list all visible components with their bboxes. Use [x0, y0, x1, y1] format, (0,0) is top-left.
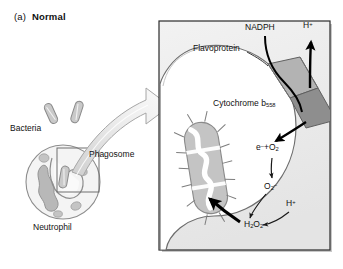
cytochrome-name: Cytochrome b: [213, 98, 266, 108]
panel-index: (a): [14, 11, 26, 22]
page-title: (a) Normal: [14, 12, 66, 22]
label-electron-plus-oxygen: e–+O2: [256, 143, 279, 153]
bacterium-left: [43, 102, 59, 124]
label-bacteria: Bacteria: [10, 124, 41, 133]
bacteria-group: [43, 100, 84, 124]
cytochrome-subscript: 558: [266, 102, 276, 108]
plus-oxygen: +O: [264, 142, 276, 152]
h2o2-o-sub: 2: [260, 223, 263, 229]
label-hydrogen-peroxide: H2O2: [244, 220, 263, 230]
arrow-proton-efflux: [310, 42, 311, 88]
oxygen-subscript: 2: [276, 146, 279, 152]
magnification-arrow: [72, 88, 170, 176]
bacterium-right: [70, 100, 84, 123]
panel-title-text: Normal: [32, 11, 66, 22]
h2o2-o: O: [253, 219, 260, 229]
label-nadph: NADPH: [245, 23, 275, 32]
label-proton-intraphagosomal: H+: [286, 199, 296, 208]
label-flavoprotein: Flavoprotein: [193, 44, 240, 53]
label-superoxide-anion: O2–: [264, 182, 277, 192]
label-proton-extracellular: OH+: [303, 21, 313, 30]
label-neutrophil: Neutrophil: [33, 223, 72, 232]
figure-panel-a-normal: (a) Normal Bacteria Phagosome Neutrophil…: [0, 0, 343, 269]
label-cytochrome-b558: Cytochrome b558: [213, 99, 276, 109]
arrow-eo2-to-superoxide: [271, 158, 272, 178]
label-phagosome: Phagosome: [89, 150, 134, 159]
superoxide-o: O: [264, 181, 271, 191]
